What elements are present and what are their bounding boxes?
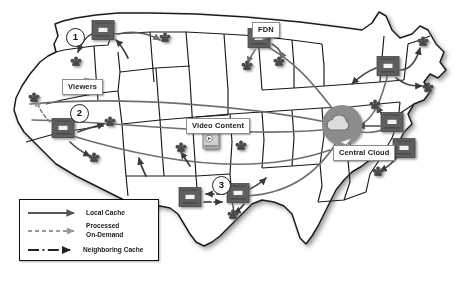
legend-swatch-dashdot-arrow: [26, 245, 82, 255]
marker-2[interactable]: 2: [70, 104, 89, 123]
legend-swatch-dashed-arrow: [26, 223, 82, 239]
label-central-cloud[interactable]: Central Cloud: [333, 145, 395, 161]
legend-swatch-solid-arrow: [26, 208, 82, 218]
legend: Local Cache Processed On-Demand: [19, 199, 159, 261]
marker-1[interactable]: 1: [66, 28, 85, 47]
legend-item-processed-on-demand: Processed On-Demand: [26, 222, 123, 239]
diagram-canvas: Viewers FDN Video Content Central Cloud …: [0, 0, 463, 281]
marker-3[interactable]: 3: [212, 176, 231, 195]
legend-label-processed: Processed: [86, 222, 123, 230]
legend-item-neighboring-cache: Neighboring Cache: [26, 245, 143, 255]
label-viewers[interactable]: Viewers: [62, 79, 103, 95]
label-video-content[interactable]: Video Content: [186, 118, 250, 134]
legend-label-on-demand: On-Demand: [86, 231, 123, 239]
cloud-callout-tail: [340, 138, 352, 145]
legend-item-local-cache: Local Cache: [26, 208, 125, 218]
label-fdn[interactable]: FDN: [252, 22, 280, 38]
legend-label-neighboring-cache: Neighboring Cache: [83, 246, 143, 254]
legend-label-local-cache: Local Cache: [86, 209, 125, 217]
